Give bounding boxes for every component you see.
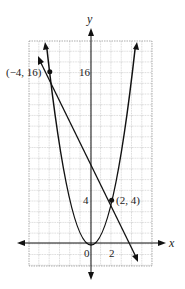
x-tick-0: 0 xyxy=(84,248,90,259)
x-tick-2: 2 xyxy=(109,248,115,259)
y-tick-4: 4 xyxy=(83,195,89,206)
y-axis-arrow-up xyxy=(88,28,94,36)
x-axis-arrow-left xyxy=(17,240,25,246)
y-axis-arrow-down xyxy=(88,272,94,280)
graph-canvas xyxy=(0,0,185,289)
intersection-point-1 xyxy=(47,69,52,74)
point-label-1: (−4, 16) xyxy=(6,67,42,78)
y-tick-16: 16 xyxy=(79,67,90,78)
x-axis-label: x xyxy=(169,237,174,249)
intersection-point-2 xyxy=(109,198,114,203)
x-axis-arrow-right xyxy=(158,240,166,246)
y-axis-label: y xyxy=(87,13,92,25)
point-label-2: (2, 4) xyxy=(116,195,140,206)
